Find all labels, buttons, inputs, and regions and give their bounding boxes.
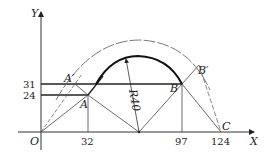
x-tick-32: 32	[81, 136, 94, 147]
x-tick-97: 97	[175, 136, 188, 147]
x-axis-label: X	[249, 135, 259, 148]
point-label-B: B	[169, 82, 178, 95]
point-label-A: A	[79, 98, 88, 111]
point-label-B-prime: B′	[197, 64, 209, 77]
point-label-C: C	[222, 120, 231, 133]
geometry-diagram: Y X O 31 24 32 97 124 A A′ B B′ C R40	[0, 0, 274, 164]
y-tick-31: 31	[23, 79, 36, 90]
radius-label: R40	[126, 87, 143, 112]
x-tick-124: 124	[211, 136, 230, 147]
point-label-A-prime: A′	[63, 72, 75, 85]
line-A-upper	[88, 76, 103, 95]
origin-label: O	[30, 135, 39, 148]
line-O-Aprime	[41, 74, 82, 132]
line-Aprime-A	[75, 84, 88, 95]
center-point	[138, 131, 140, 133]
y-tick-24: 24	[23, 90, 36, 101]
line-B-C	[182, 84, 221, 132]
y-axis-label: Y	[31, 7, 40, 20]
thick-arc-R40	[96, 56, 182, 84]
